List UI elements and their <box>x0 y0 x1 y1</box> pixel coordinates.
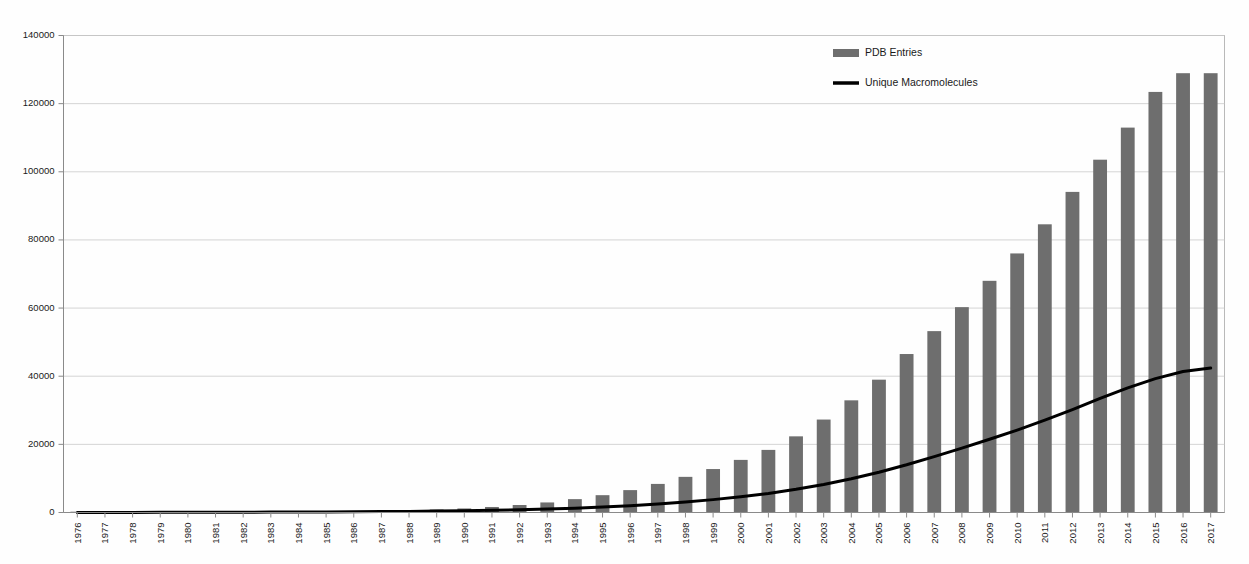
bar-2014 <box>1121 128 1135 513</box>
x-tick-label-2003: 2003 <box>818 523 829 544</box>
pdb-growth-chart: 020000400006000080000100000120000140000 … <box>0 0 1249 564</box>
bar-2004 <box>844 400 858 512</box>
x-tick-label-1985: 1985 <box>321 523 332 544</box>
y-tick-label: 120000 <box>23 97 55 108</box>
x-tick-label-2012: 2012 <box>1067 523 1078 544</box>
x-tick-label-1984: 1984 <box>293 523 304 544</box>
legend-label-unique-macromolecules: Unique Macromolecules <box>865 76 978 88</box>
x-tick-label-2006: 2006 <box>901 523 912 544</box>
x-tick-label-2010: 2010 <box>1012 523 1023 544</box>
bar-2001 <box>761 450 775 513</box>
bar-2008 <box>955 307 969 512</box>
y-tick-label: 40000 <box>28 370 54 381</box>
legend-label-pdb-entries: PDB Entries <box>865 46 922 58</box>
x-tick-label-1995: 1995 <box>597 523 608 544</box>
x-tick-label-1992: 1992 <box>514 523 525 544</box>
x-tick-label-2007: 2007 <box>929 523 940 544</box>
x-tick-label-1977: 1977 <box>99 523 110 544</box>
bar-1996 <box>623 490 637 512</box>
bar-2006 <box>900 354 914 512</box>
x-tick-label-1978: 1978 <box>127 523 138 544</box>
x-tick-label-1990: 1990 <box>459 523 470 544</box>
x-tick-label-2017: 2017 <box>1205 523 1216 544</box>
bar-1999 <box>706 469 720 512</box>
y-tick-label: 80000 <box>28 233 54 244</box>
y-tick-label: 20000 <box>28 438 54 449</box>
y-tick-label: 100000 <box>23 165 55 176</box>
chart-background <box>0 0 1249 564</box>
x-tick-label-1983: 1983 <box>265 523 276 544</box>
x-tick-label-2011: 2011 <box>1039 523 1050 543</box>
bar-2009 <box>983 281 997 513</box>
bar-2007 <box>927 331 941 512</box>
x-tick-label-1994: 1994 <box>569 523 580 544</box>
x-tick-label-1987: 1987 <box>376 523 387 544</box>
y-tick-label: 140000 <box>23 29 55 40</box>
bar-1998 <box>679 477 693 513</box>
x-tick-label-2002: 2002 <box>791 523 802 544</box>
x-tick-label-2008: 2008 <box>956 523 967 544</box>
x-tick-label-1998: 1998 <box>680 523 691 544</box>
x-tick-label-1986: 1986 <box>348 523 359 544</box>
x-tick-label-1979: 1979 <box>155 523 166 544</box>
x-tick-label-1980: 1980 <box>182 523 193 544</box>
bar-1994 <box>568 499 582 512</box>
x-tick-label-2009: 2009 <box>984 523 995 544</box>
bar-2015 <box>1148 92 1162 513</box>
bar-2011 <box>1038 224 1052 512</box>
x-tick-label-2001: 2001 <box>763 523 774 544</box>
legend-swatch-pdb-entries <box>833 49 859 57</box>
x-tick-label-1976: 1976 <box>72 523 83 544</box>
bar-1995 <box>596 495 610 512</box>
bar-2012 <box>1066 192 1080 513</box>
bar-2013 <box>1093 160 1107 513</box>
x-tick-label-1991: 1991 <box>486 523 497 544</box>
x-tick-label-2014: 2014 <box>1122 523 1133 544</box>
x-tick-label-1993: 1993 <box>542 523 553 544</box>
x-tick-label-2005: 2005 <box>873 523 884 544</box>
bar-2010 <box>1010 253 1024 512</box>
x-tick-label-2004: 2004 <box>846 523 857 544</box>
bar-2005 <box>872 380 886 513</box>
x-tick-label-1997: 1997 <box>652 523 663 544</box>
bar-2002 <box>789 436 803 512</box>
x-tick-label-1988: 1988 <box>404 523 415 544</box>
bar-2000 <box>734 460 748 513</box>
bar-2017 <box>1204 73 1218 512</box>
x-tick-label-2015: 2015 <box>1150 523 1161 544</box>
x-tick-label-1989: 1989 <box>431 523 442 544</box>
chart-canvas: 020000400006000080000100000120000140000 … <box>0 0 1249 564</box>
bar-2003 <box>817 420 831 513</box>
x-tick-label-1982: 1982 <box>238 523 249 544</box>
y-tick-label: 0 <box>49 506 54 517</box>
x-tick-label-2016: 2016 <box>1178 523 1189 544</box>
x-tick-label-1999: 1999 <box>708 523 719 544</box>
x-tick-label-1996: 1996 <box>625 523 636 544</box>
bar-1997 <box>651 484 665 513</box>
bar-2016 <box>1176 73 1190 512</box>
x-tick-label-2013: 2013 <box>1095 523 1106 544</box>
x-tick-label-2000: 2000 <box>735 523 746 544</box>
x-tick-label-1981: 1981 <box>210 523 221 544</box>
y-tick-label: 60000 <box>28 302 54 313</box>
